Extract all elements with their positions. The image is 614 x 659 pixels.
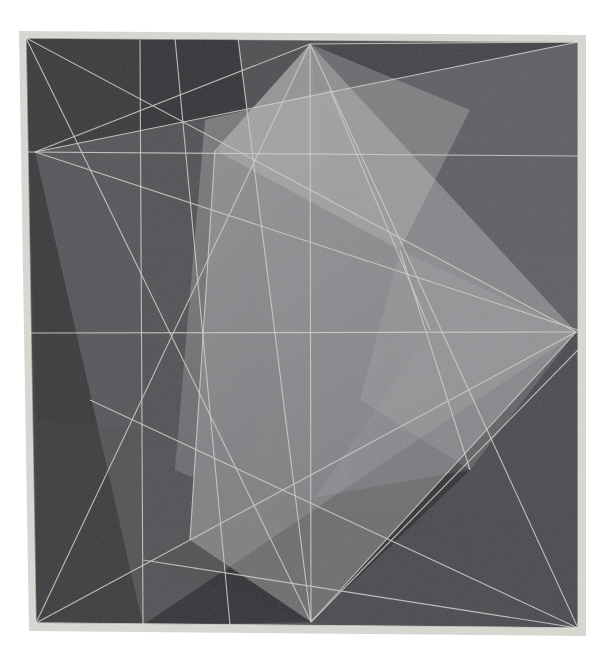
geometric-composition-svg — [0, 0, 614, 659]
artwork-canvas: Abstract Geometric Composition — [0, 0, 614, 659]
brush-texture — [20, 32, 590, 640]
plate-interior — [20, 32, 590, 640]
